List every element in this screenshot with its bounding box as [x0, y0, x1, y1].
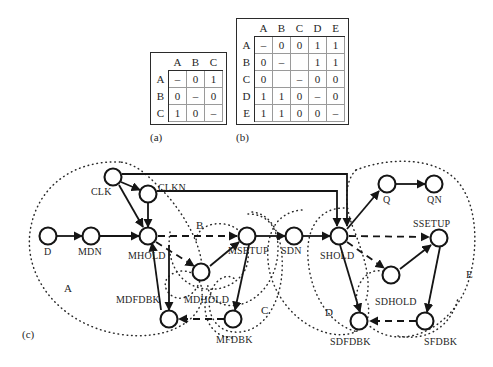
- table-row: A – 0 1: [153, 71, 223, 88]
- node-SDFDBK[interactable]: [351, 313, 368, 330]
- node-label-MDHOLD: MDHOLD: [184, 294, 229, 305]
- truth-table-b-box: A B C D E A – 0 0 1 1 B: [236, 18, 349, 125]
- table-cell: 0: [255, 71, 273, 88]
- node-MSETUP[interactable]: [239, 228, 256, 245]
- truth-table-a-grid: A B C A – 0 1 B 0 – 0: [153, 55, 223, 122]
- node-label-MDFDBK: MDFDBK: [116, 294, 160, 305]
- truth-table-b: A B C D E A – 0 0 1 1 B: [236, 18, 349, 143]
- region-label-D: D: [325, 306, 333, 318]
- region-label-E: E: [466, 268, 473, 280]
- node-SDHOLD[interactable]: [383, 267, 400, 284]
- col-header: C: [291, 21, 309, 37]
- node-MHOLD[interactable]: [140, 228, 157, 245]
- edge-SDHOLD-SSETUP: [400, 245, 431, 269]
- table-cell: 0: [309, 71, 327, 88]
- node-label-MDN: MDN: [78, 246, 102, 257]
- row-header: A: [153, 71, 169, 88]
- table-cell: 0: [187, 71, 205, 88]
- table-cell: 0: [255, 54, 273, 71]
- node-label-SSETUP: SSETUP: [413, 218, 450, 229]
- region-B-outline: [169, 224, 248, 290]
- table-cell: –: [309, 88, 327, 105]
- node-SSETUP[interactable]: [431, 230, 448, 247]
- table-a-caption: (a): [150, 131, 227, 143]
- table-cell: 1: [273, 88, 291, 105]
- table-cell: 0: [169, 88, 187, 105]
- node-label-SDN: SDN: [281, 245, 302, 256]
- table-cell: 0: [291, 88, 309, 105]
- table-cell: 0: [327, 71, 345, 88]
- node-label-SDFDBK: SDFDBK: [330, 336, 371, 347]
- table-cell: 1: [273, 105, 291, 122]
- table-cell: 1: [327, 54, 345, 71]
- node-label-QN: QN: [427, 194, 442, 205]
- table-row: B 0 – 1 1: [239, 54, 345, 71]
- table-cell: 0: [291, 105, 309, 122]
- graph-caption: (c): [22, 328, 34, 340]
- node-label-MSETUP: MSETUP: [228, 245, 269, 256]
- row-header: E: [239, 105, 255, 122]
- row-header: B: [239, 54, 255, 71]
- node-label-SFDBK: SFDBK: [424, 336, 457, 347]
- row-header: A: [239, 37, 255, 54]
- row-header: B: [153, 88, 169, 105]
- table-row: C 0 – 0 0: [239, 71, 345, 88]
- table-cell: 0: [187, 105, 205, 122]
- table-cell: –: [291, 71, 309, 88]
- node-CLKN[interactable]: [140, 186, 157, 203]
- figure-root: A B C A – 0 1 B 0 – 0: [0, 0, 493, 367]
- col-header: B: [187, 55, 205, 71]
- truth-table-b-grid: A B C D E A – 0 0 1 1 B: [239, 21, 345, 122]
- table-cell: –: [169, 71, 187, 88]
- table-cell: –: [327, 105, 345, 122]
- table-cell: –: [273, 54, 291, 71]
- table-header-row: A B C D E: [239, 21, 345, 37]
- table-cell: –: [205, 105, 223, 122]
- col-header: E: [327, 21, 345, 37]
- table-cell: 1: [169, 105, 187, 122]
- table-cell: 0: [327, 88, 345, 105]
- node-SDN[interactable]: [286, 228, 303, 245]
- table-row: D 1 1 0 – 0: [239, 88, 345, 105]
- row-header: C: [239, 71, 255, 88]
- node-MFDBK[interactable]: [225, 311, 242, 328]
- edge-SHOLD-Q: [347, 191, 379, 229]
- node-Q[interactable]: [379, 176, 396, 193]
- table-cell: 1: [309, 54, 327, 71]
- table-cell: 0: [291, 37, 309, 54]
- node-QN[interactable]: [426, 176, 443, 193]
- node-label-Q: Q: [383, 194, 390, 205]
- row-header: C: [153, 105, 169, 122]
- row-header: D: [239, 88, 255, 105]
- table-cell: [291, 54, 309, 71]
- node-MDN[interactable]: [83, 228, 100, 245]
- edge-CLK-SHOLD: [122, 174, 347, 226]
- table-cell: 1: [255, 88, 273, 105]
- node-label-CLK: CLK: [91, 186, 112, 197]
- table-cell: 1: [205, 71, 223, 88]
- table-row: A – 0 0 1 1: [239, 37, 345, 54]
- truth-table-a-box: A B C A – 0 1 B 0 – 0: [150, 52, 227, 125]
- table-cell: 1: [327, 37, 345, 54]
- table-header-row: A B C: [153, 55, 223, 71]
- table-row: C 1 0 –: [153, 105, 223, 122]
- region-E-outline: [356, 161, 475, 337]
- edge-SHOLD-SSETUP-dashed: [349, 236, 429, 237]
- node-SFDBK[interactable]: [417, 313, 434, 330]
- table-cell: 0: [309, 105, 327, 122]
- node-D[interactable]: [40, 228, 57, 245]
- col-header: A: [169, 55, 187, 71]
- table-corner-cell: [153, 55, 169, 71]
- table-b-caption: (b): [236, 131, 349, 143]
- node-SHOLD[interactable]: [331, 228, 348, 245]
- node-label-SDHOLD: SDHOLD: [375, 296, 417, 307]
- table-corner-cell: [239, 21, 255, 37]
- table-cell: [273, 71, 291, 88]
- table-cell: 0: [273, 37, 291, 54]
- node-MDHOLD[interactable]: [193, 264, 210, 281]
- col-header: C: [205, 55, 223, 71]
- node-MDFDBK[interactable]: [161, 311, 178, 328]
- node-CLK[interactable]: [105, 169, 122, 186]
- edge-SSETUP-SFDBK: [427, 247, 440, 312]
- table-cell: 1: [309, 37, 327, 54]
